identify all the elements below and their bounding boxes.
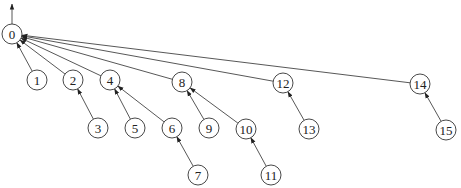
edge-13-to-12 (288, 92, 304, 121)
node-label: 11 (265, 168, 278, 183)
edge-2-to-0 (20, 40, 65, 74)
node-1: 1 (27, 70, 47, 90)
node-label: 8 (179, 75, 186, 90)
edge-7-to-6 (177, 137, 193, 166)
edge-11-to-10 (251, 138, 266, 166)
node-label: 3 (95, 121, 102, 136)
node-3: 3 (88, 118, 108, 138)
node-14: 14 (410, 74, 430, 94)
node-label: 13 (303, 122, 316, 137)
node-10: 10 (236, 119, 256, 139)
edge-3-to-2 (78, 89, 94, 119)
node-label: 12 (277, 76, 290, 91)
edge-6-to-4 (118, 86, 164, 122)
node-9: 9 (199, 118, 219, 138)
node-label: 1 (34, 73, 41, 88)
node-4: 4 (100, 70, 120, 90)
node-label: 2 (70, 73, 77, 88)
node-5: 5 (125, 118, 145, 138)
node-2: 2 (63, 70, 83, 90)
node-11: 11 (261, 165, 281, 185)
node-label: 0 (9, 27, 16, 42)
node-15: 15 (436, 120, 456, 140)
node-label: 15 (440, 123, 453, 138)
node-13: 13 (299, 119, 319, 139)
node-label: 7 (195, 168, 202, 183)
node-12: 12 (273, 73, 293, 93)
node-0: 0 (2, 24, 22, 44)
edge-9-to-8 (187, 91, 204, 120)
edge-12-to-0 (22, 36, 273, 81)
node-label: 9 (206, 121, 213, 136)
node-label: 10 (240, 122, 253, 137)
node-8: 8 (172, 72, 192, 92)
node-label: 14 (414, 77, 428, 92)
node-7: 7 (188, 165, 208, 185)
edge-10-to-8 (190, 88, 238, 123)
node-6: 6 (162, 118, 182, 138)
node-label: 4 (107, 73, 114, 88)
tree-diagram: 0124812143569101315711 (0, 0, 461, 188)
node-label: 5 (132, 121, 139, 136)
nodes-layer: 0124812143569101315711 (2, 24, 456, 185)
node-label: 6 (169, 121, 176, 136)
edge-15-to-14 (425, 93, 441, 122)
